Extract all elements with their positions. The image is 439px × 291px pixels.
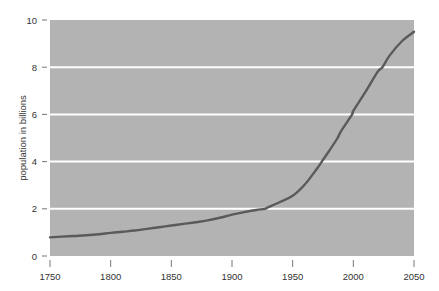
x-tick-label-2050: 2050 bbox=[403, 271, 424, 282]
y-tick-label-8: 8 bbox=[32, 62, 37, 73]
x-tick-label-1900: 1900 bbox=[221, 271, 242, 282]
x-tick-label-1950: 1950 bbox=[282, 271, 303, 282]
x-tick-label-1800: 1800 bbox=[100, 271, 121, 282]
population-chart: 0246810 1750180018501900195020002050 pop… bbox=[0, 0, 439, 291]
y-axis-title: population in billions bbox=[17, 95, 28, 181]
y-tick-label-4: 4 bbox=[32, 156, 37, 167]
plot-area-background bbox=[50, 20, 414, 256]
y-tick-label-0: 0 bbox=[32, 251, 37, 262]
y-tick-label-2: 2 bbox=[32, 203, 37, 214]
y-tick-label-6: 6 bbox=[32, 109, 37, 120]
chart-canvas: 0246810 1750180018501900195020002050 pop… bbox=[0, 0, 439, 291]
y-tick-label-10: 10 bbox=[26, 15, 37, 26]
x-tick-label-1750: 1750 bbox=[39, 271, 60, 282]
x-tick-label-1850: 1850 bbox=[161, 271, 182, 282]
x-tick-label-2000: 2000 bbox=[343, 271, 364, 282]
